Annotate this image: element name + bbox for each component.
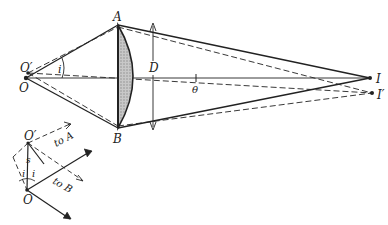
label-B: B [112,132,122,146]
inset-label-to-A: to A [52,129,75,148]
inset-label-i-left: i [22,168,25,179]
label-angle-i: i [58,63,62,76]
angle-i-arc [62,58,64,78]
diameter-arrow [150,23,156,130]
label-I-prime: I′ [376,88,385,102]
inset-label-O-prime: O′ [24,129,37,143]
inset-label-s: s [26,155,31,165]
lens [118,25,133,128]
label-A: A [112,10,122,24]
point-O [24,76,28,80]
point-I-prime [370,91,374,95]
label-O-prime: O′ [20,61,33,75]
inset-label-to-B: to B [51,175,74,195]
inset-label-O: O [23,193,33,207]
label-D: D [148,61,159,75]
point-I [368,76,372,80]
lens-resolution-diagram: O′ O A B I I′ i D θ O′ O s i i to A to B [0,0,388,225]
label-theta: θ [192,84,198,95]
inset-label-i-right: i [32,168,35,179]
label-O: O [19,81,29,95]
label-I: I [375,72,381,86]
solid-rays [26,25,370,128]
